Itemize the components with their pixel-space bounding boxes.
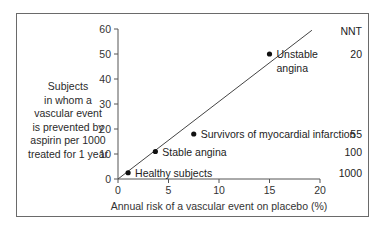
x-tick-label: 10	[213, 184, 225, 196]
x-axis-label: Annual risk of a vascular event on place…	[111, 200, 328, 212]
data-point	[153, 149, 158, 154]
y-tick-label: 40	[99, 73, 111, 85]
y-tick-label: 0	[105, 173, 111, 185]
x-tick-label: 20	[314, 184, 326, 196]
y-tick-label: 60	[99, 23, 111, 35]
nnt-column: NNT10001005520	[339, 25, 363, 179]
point-label: Healthy subjects	[135, 167, 212, 179]
point-label: Stable angina	[162, 146, 226, 158]
nnt-value: 1000	[339, 167, 363, 179]
data-points: Healthy subjectsStable anginaSurvivors o…	[126, 48, 356, 179]
point-label: angina	[277, 62, 309, 74]
nnt-value: 20	[350, 48, 362, 60]
x-tick-label: 5	[166, 184, 172, 196]
point-label: Unstable	[277, 48, 319, 60]
scatter-plot: 010203040506005101520 Healthy subjectsSt…	[0, 0, 383, 228]
y-tick-label: 20	[99, 123, 111, 135]
y-tick-label: 50	[99, 48, 111, 60]
y-tick-label: 30	[99, 98, 111, 110]
x-tick-label: 15	[264, 184, 276, 196]
nnt-value: 55	[350, 128, 362, 140]
y-tick-label: 10	[99, 148, 111, 160]
x-tick-label: 0	[115, 184, 121, 196]
data-point	[191, 131, 196, 136]
data-point	[267, 51, 272, 56]
data-point	[126, 170, 131, 175]
point-label: Survivors of myocardial infarction	[201, 128, 356, 140]
nnt-value: 100	[344, 146, 362, 158]
nnt-header: NNT	[340, 25, 362, 37]
